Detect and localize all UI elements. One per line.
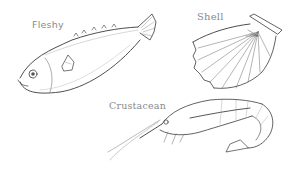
scallop-shell-drawing xyxy=(193,14,282,88)
label-shell: Shell xyxy=(197,11,224,22)
label-crustacean: Crustacean xyxy=(109,100,166,111)
seafood-illustration: Fleshy Shell Crustacean xyxy=(0,0,302,171)
label-fleshy: Fleshy xyxy=(32,19,64,30)
